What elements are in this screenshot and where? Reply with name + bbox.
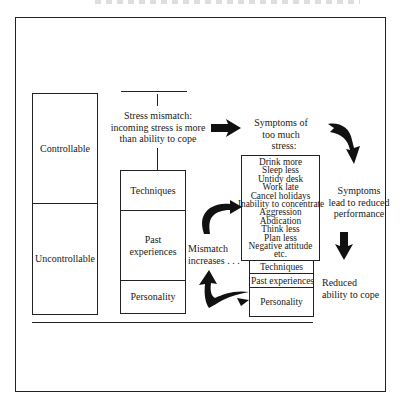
reduced-ability-line-1: Reduced (322, 277, 392, 289)
curved-arrow-down-icon (328, 122, 364, 164)
reduced-past-label: Past experiences (251, 275, 314, 287)
symptoms-heading: Symptoms of too much stress: (246, 117, 316, 152)
coping-past-line-1: Past (145, 234, 162, 246)
coping-past-cell: Past experiences (121, 211, 185, 280)
symptoms-heading-line-1: Symptoms of (246, 117, 316, 129)
controllable-label: Controllable (40, 143, 90, 155)
cropped-caption (95, 0, 360, 4)
mismatch-increases-text: Mismatch increases . . . (188, 243, 244, 266)
coping-stack: Techniques Past experiences Personality (120, 170, 186, 314)
mismatch-line-1: Stress mismatch: (108, 110, 208, 122)
uncontrollable-label: Uncontrollable (35, 253, 95, 265)
symptoms-heading-line-3: stress: (246, 140, 316, 152)
mismatch-increases-line-2: increases . . . (188, 255, 244, 267)
bottom-rule (32, 322, 313, 323)
performance-text: Symptoms lead to reduced performance (325, 185, 393, 220)
symptoms-list: Drink more Sleep less Untidy desk Work l… (242, 158, 319, 259)
controllability-box: Controllable Uncontrollable (32, 93, 98, 315)
reduced-techniques-label: Techniques (260, 261, 303, 273)
top-bar (121, 91, 187, 92)
controllable-cell: Controllable (33, 94, 97, 203)
coping-techniques-label: Techniques (130, 185, 175, 197)
top-connector (157, 94, 158, 106)
stack-connector (157, 148, 158, 170)
reduced-coping-stack: Techniques Past experiences Personality (249, 260, 314, 317)
symptoms-heading-line-2: too much (246, 129, 316, 141)
stress-mismatch-text: Stress mismatch: incoming stress is more… (108, 110, 208, 145)
reduced-techniques-cell: Techniques (250, 261, 313, 273)
performance-line-1: Symptoms (325, 185, 393, 197)
mismatch-line-2: incoming stress is more (108, 122, 208, 134)
reduced-personality-cell: Personality (250, 288, 313, 316)
coping-personality-cell: Personality (121, 281, 185, 313)
performance-line-3: performance (325, 208, 393, 220)
symptoms-list-box: Drink more Sleep less Untidy desk Work l… (241, 155, 320, 261)
symptom-item: etc. (242, 250, 319, 258)
mismatch-line-3: than ability to cope (108, 133, 208, 145)
uncontrollable-cell: Uncontrollable (33, 204, 97, 314)
performance-line-2: lead to reduced (325, 197, 393, 209)
reduced-past-cell: Past experiences (250, 274, 313, 287)
arrow-right-icon (211, 119, 241, 137)
mismatch-increases-line-1: Mismatch (188, 243, 244, 255)
coping-personality-label: Personality (131, 291, 176, 303)
coping-past-line-2: experiences (129, 246, 176, 258)
reduced-personality-label: Personality (260, 296, 303, 308)
arrow-down-icon (335, 232, 353, 260)
curved-arrow-up-right-icon (200, 200, 242, 234)
reduced-ability-line-2: ability to cope (322, 289, 392, 301)
reduced-ability-text: Reduced ability to cope (322, 277, 392, 300)
coping-techniques-cell: Techniques (121, 171, 185, 210)
curved-arrow-up-left-icon (199, 270, 249, 308)
